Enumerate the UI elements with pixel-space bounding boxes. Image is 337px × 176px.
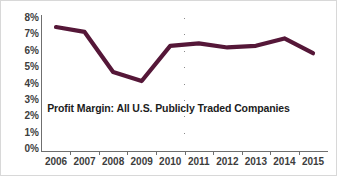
x-axis-tick xyxy=(99,151,100,155)
y-axis-tick-label: 0% xyxy=(3,144,39,154)
line-series xyxy=(42,18,327,149)
y-axis-tick-label: 5% xyxy=(3,62,39,72)
x-axis-tick xyxy=(70,151,71,155)
plot-area xyxy=(42,18,327,149)
y-axis-labels: 8%7%6%5%4%3%2%1%0% xyxy=(1,1,39,176)
chart-title: Profit Margin: All U.S. Publicly Traded … xyxy=(1,102,336,114)
x-axis-tick-label: 2015 xyxy=(295,156,331,167)
profit-margin-line xyxy=(56,27,313,81)
x-axis-tick xyxy=(299,151,300,155)
y-axis-tick-label: 6% xyxy=(3,46,39,56)
y-axis-tick-label: 1% xyxy=(3,128,39,138)
y-axis-tick-label: 8% xyxy=(3,13,39,23)
x-axis-tick xyxy=(213,151,214,155)
chart-figure: 8%7%6%5%4%3%2%1%0% 200620072008200920102… xyxy=(0,0,337,176)
y-axis-tick-label: 7% xyxy=(3,29,39,39)
x-axis-tick xyxy=(242,151,243,155)
x-axis-tick xyxy=(127,151,128,155)
x-axis-tick xyxy=(156,151,157,155)
y-axis-tick-label: 4% xyxy=(3,79,39,89)
x-axis-tick xyxy=(270,151,271,155)
x-axis-tick xyxy=(185,151,186,155)
